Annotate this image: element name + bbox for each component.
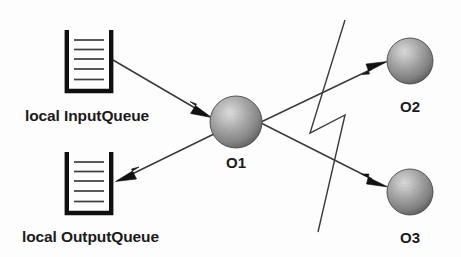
arrowhead-into-o3: [362, 174, 389, 187]
edge-o1-to-o3: [261, 123, 388, 187]
edge-o1-to-o2: [261, 62, 388, 123]
diagram-canvas: O1 O2 O3 local InputQueue local OutputQu…: [0, 0, 461, 257]
edge-o1-to-output-queue: [116, 133, 217, 182]
node-o2[interactable]: [387, 38, 433, 84]
o1-label: O1: [226, 154, 246, 171]
output-queue-icon: [67, 152, 111, 213]
edge-line-o1-to-o3: [261, 123, 372, 179]
diagram-svg: O1 O2 O3 local InputQueue local OutputQu…: [0, 0, 461, 257]
node-o3[interactable]: [387, 169, 433, 215]
input-queue-label: local InputQueue: [25, 107, 150, 124]
input-queue-icon: [67, 30, 111, 91]
arrowhead-into-o2: [362, 62, 388, 75]
o2-label: O2: [400, 98, 420, 115]
edge-line-o1-to-output: [128, 133, 216, 176]
node-o1[interactable]: [210, 96, 262, 148]
output-queue-label: local OutputQueue: [22, 228, 159, 245]
arrowhead-into-o1: [190, 102, 212, 118]
o3-label: O3: [400, 229, 420, 246]
arrowhead-into-output-queue: [116, 167, 140, 182]
lightning-bolt-icon: [310, 20, 345, 232]
